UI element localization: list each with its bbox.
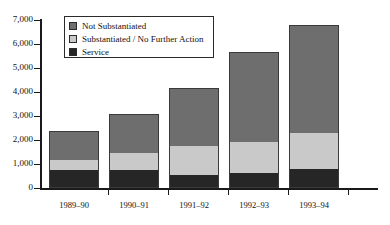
bar-1989-90 <box>49 131 99 188</box>
x-axis-tick <box>108 189 109 195</box>
legend-item-service: Service <box>69 46 209 58</box>
x-axis-tick-label: 1991–92 <box>164 200 224 210</box>
y-axis-tick <box>34 116 42 117</box>
legend-swatch-not-substantiated <box>69 22 77 30</box>
y-axis-tick-label-wrap: 4,000 <box>0 87 33 96</box>
y-axis-tick-label-wrap: 0 <box>0 183 33 192</box>
x-axis-tick-label: 1992–93 <box>224 200 284 210</box>
y-axis-tick-label-wrap: 5,000 <box>0 63 33 72</box>
stacked-bar-chart: 01,0002,0003,0004,0005,0006,0007,000 198… <box>0 0 390 225</box>
x-axis-tick <box>288 189 289 195</box>
bar-segment-service <box>169 175 219 188</box>
bar-segment-not-substantiated <box>289 25 339 133</box>
legend-item-substantiated-no-further-action: Substantiated / No Further Action <box>69 33 209 45</box>
bar-segment-substantiated-no-further-action <box>109 153 159 170</box>
chart-legend: Not Substantiated Substantiated / No Fur… <box>64 16 214 58</box>
y-axis-tick-label-wrap: 3,000 <box>0 111 33 120</box>
y-axis-tick-label: 5,000 <box>0 63 33 72</box>
bar-segment-substantiated-no-further-action <box>49 160 99 170</box>
y-axis-tick-label-wrap: 6,000 <box>0 39 33 48</box>
bar-segment-service <box>229 173 279 188</box>
y-axis-tick-label: 2,000 <box>0 135 33 144</box>
legend-swatch-service <box>69 48 77 56</box>
bar-segment-not-substantiated <box>229 52 279 141</box>
bar-1991-92 <box>169 88 219 188</box>
y-axis-tick-label-wrap: 2,000 <box>0 135 33 144</box>
y-axis-tick <box>34 140 42 141</box>
y-axis-tick <box>34 20 42 21</box>
y-axis-tick <box>34 164 42 165</box>
x-axis-tick <box>168 189 169 195</box>
bar-segment-substantiated-no-further-action <box>169 146 219 175</box>
y-axis-tick <box>34 44 42 45</box>
x-axis-tick-label: 1993–94 <box>284 200 344 210</box>
x-axis-tick-label: 1990–91 <box>104 200 164 210</box>
legend-label-service: Service <box>82 47 109 57</box>
legend-label-not-substantiated: Not Substantiated <box>82 21 146 31</box>
x-axis-tick-label: 1989–90 <box>44 200 104 210</box>
y-axis-tick-label-wrap: 7,000 <box>0 15 33 24</box>
x-axis-tick <box>228 189 229 195</box>
bar-segment-substantiated-no-further-action <box>229 142 279 173</box>
y-axis-tick <box>34 188 42 189</box>
bar-segment-service <box>289 169 339 188</box>
y-axis-tick-label: 1,000 <box>0 159 33 168</box>
bar-segment-substantiated-no-further-action <box>289 133 339 169</box>
y-axis-tick-label: 7,000 <box>0 15 33 24</box>
legend-label-substantiated-no-further-action: Substantiated / No Further Action <box>82 34 204 44</box>
bar-segment-service <box>109 170 159 188</box>
bar-1992-93 <box>229 52 279 188</box>
y-axis-tick <box>34 92 42 93</box>
y-axis-tick-label: 6,000 <box>0 39 33 48</box>
y-axis-tick-label: 4,000 <box>0 87 33 96</box>
bar-1993-94 <box>289 25 339 188</box>
y-axis-tick-label: 0 <box>0 183 33 192</box>
bar-segment-service <box>49 170 99 188</box>
bar-segment-not-substantiated <box>109 114 159 154</box>
bar-segment-not-substantiated <box>49 131 99 160</box>
x-axis-line <box>40 188 378 190</box>
legend-item-not-substantiated: Not Substantiated <box>69 20 209 32</box>
bar-segment-not-substantiated <box>169 88 219 146</box>
y-axis-tick <box>34 68 42 69</box>
legend-swatch-substantiated-no-further-action <box>69 35 77 43</box>
bar-1990-91 <box>109 114 159 188</box>
y-axis-tick-label-wrap: 1,000 <box>0 159 33 168</box>
y-axis-tick-label: 3,000 <box>0 111 33 120</box>
x-axis-tick <box>348 189 349 195</box>
